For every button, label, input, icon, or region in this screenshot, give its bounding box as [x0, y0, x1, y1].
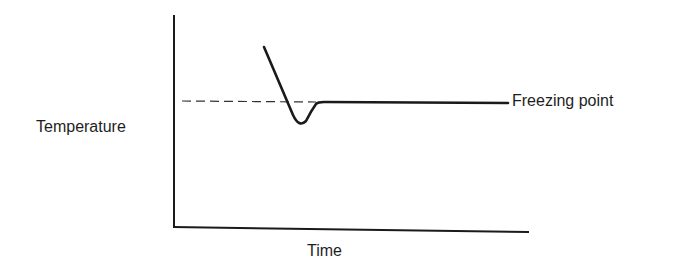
y-axis-label: Temperature: [36, 118, 126, 136]
cooling-curve: [264, 47, 508, 123]
freezing-point-dashed-line: [182, 101, 316, 102]
chart-canvas: [0, 0, 687, 274]
x-axis: [173, 227, 529, 232]
freezing-point-label: Freezing point: [512, 92, 613, 110]
x-axis-label: Time: [307, 242, 342, 260]
